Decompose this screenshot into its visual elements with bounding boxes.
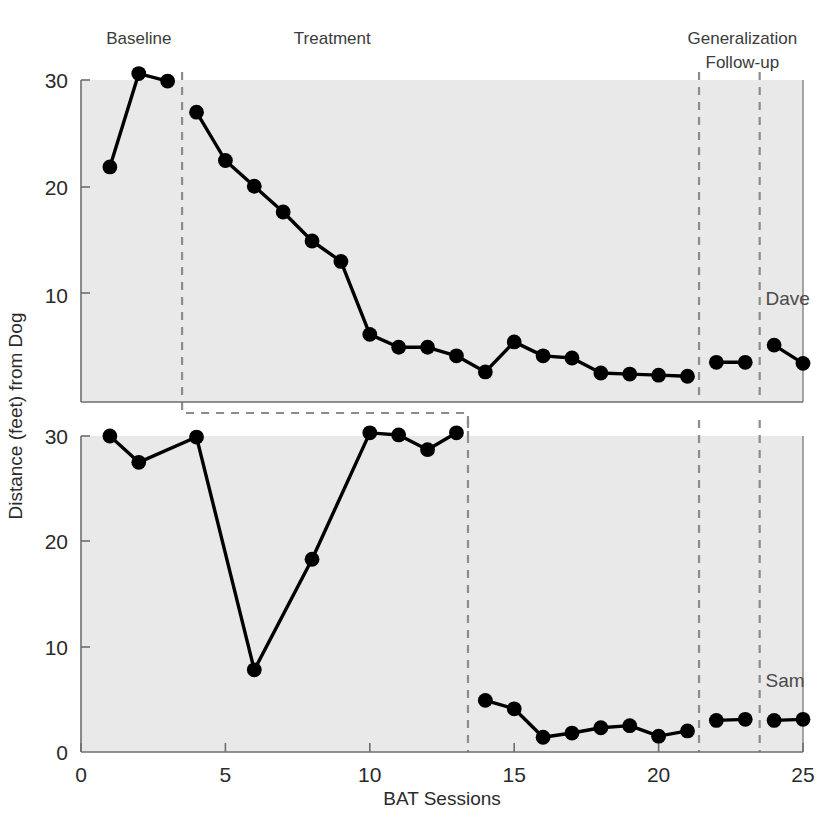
data-point [507,334,522,349]
data-point [247,662,262,677]
phase-label: Treatment [294,29,371,48]
data-point [362,327,377,342]
data-point [709,713,724,728]
data-point [391,340,406,355]
data-point [189,105,204,120]
data-point [305,234,320,249]
y-axis-title: Distance (feet) from Dog [5,313,26,520]
data-point [796,712,811,727]
connector-bracket [182,402,468,436]
data-point [449,425,464,440]
data-point [420,442,435,457]
data-point [680,369,695,384]
data-point [536,730,551,745]
data-point [276,205,291,220]
data-point [218,153,233,168]
y-tick-label-top: 20 [45,176,68,199]
y-tick-label-top: 30 [45,69,68,92]
phase-connector-box [182,402,468,436]
data-point [478,693,493,708]
data-point [536,348,551,363]
data-point [305,552,320,567]
data-point [738,355,753,370]
phase-label: Follow-up [706,53,780,72]
data-point [102,160,117,175]
data-point [565,351,580,366]
phase-heading-labels: BaselineTreatmentGeneralizationFollow-up [106,29,797,72]
y-axis-tick-labels-bottom: 0102030 [45,425,68,764]
data-point [767,713,782,728]
phase-label: Baseline [106,29,171,48]
data-point [565,726,580,741]
data-point [738,712,753,727]
data-point [391,428,406,443]
data-point [680,724,695,739]
series-name-label: Sam [765,670,804,691]
data-point [102,429,117,444]
data-point [131,66,146,81]
y-tick-label-top: 10 [45,284,68,307]
data-point [593,366,608,381]
x-axis-title: BAT Sessions [383,788,501,809]
data-point [651,729,666,744]
y-tick-label-bottom: 30 [45,425,68,448]
data-point [160,74,175,89]
data-point [131,455,146,470]
x-tick-label: 20 [647,763,670,786]
data-point [189,430,204,445]
data-point [507,701,522,716]
data-point [593,720,608,735]
top-panel-background [81,80,803,402]
data-point [247,179,262,194]
data-point [478,365,493,380]
series-name-label: Dave [765,288,809,309]
y-tick-label-bottom: 0 [56,741,68,764]
x-tick-label: 10 [358,763,381,786]
y-tick-label-bottom: 20 [45,530,68,553]
data-point [796,356,811,371]
data-point [622,367,637,382]
y-axis-tick-labels-top: 102030 [45,69,68,307]
data-point [651,368,666,383]
x-tick-label: 5 [220,763,232,786]
phase-label: Generalization [688,29,798,48]
data-point [334,254,349,269]
multiple-baseline-line-chart: 102030 0102030 0510152025 BaselineTreatm… [0,0,825,834]
bottom-panel-background [81,436,803,752]
chart-figure: 102030 0102030 0510152025 BaselineTreatm… [0,0,825,834]
y-tick-label-bottom: 10 [45,636,68,659]
x-tick-label: 15 [503,763,526,786]
data-point [767,338,782,353]
data-point [709,355,724,370]
x-tick-label: 25 [791,763,814,786]
data-point [420,340,435,355]
x-axis-tick-labels: 0510152025 [75,763,815,786]
data-point [449,348,464,363]
x-tick-label: 0 [75,763,87,786]
data-point [362,425,377,440]
data-point [622,718,637,733]
